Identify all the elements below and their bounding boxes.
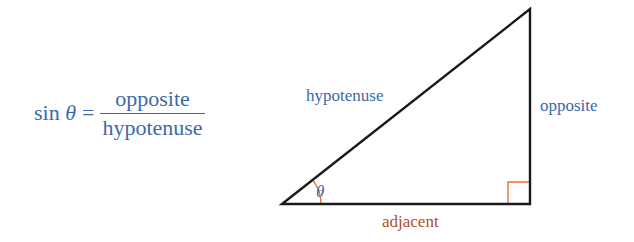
adjacent-label: adjacent (382, 212, 439, 232)
right-angle-marker (508, 182, 530, 204)
right-triangle-diagram (0, 0, 634, 242)
hypotenuse-label: hypotenuse (306, 86, 383, 106)
triangle-edges (282, 9, 530, 204)
angle-theta-label: θ (316, 182, 324, 202)
opposite-label: opposite (540, 96, 598, 116)
